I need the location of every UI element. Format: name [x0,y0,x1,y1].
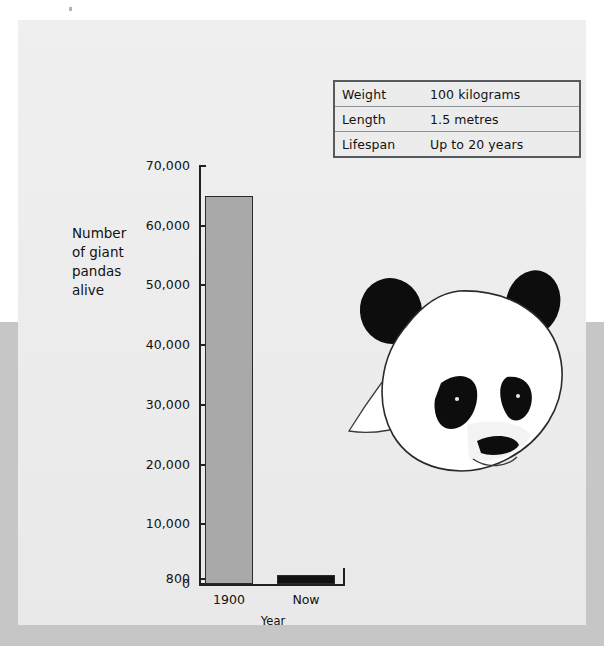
x-tick-label-now: Now [276,592,336,607]
x-axis-title: Year [218,614,328,628]
table-row: Length 1.5 metres [335,107,579,132]
y-axis-title-line: of giant [72,243,172,262]
y-tick-label: 30,000 [70,397,190,412]
fact-label-weight: Weight [342,87,430,102]
x-tick-label-1900: 1900 [194,592,264,607]
y-tick-label: 70,000 [70,158,190,173]
y-tick-label: 60,000 [70,218,190,233]
panda-population-bar-chart: Number of giant pandas alive 080010,0002… [58,140,368,630]
x-axis-line [199,584,345,586]
bar-now [277,575,335,584]
x-axis-end-cap [343,568,345,586]
bar-1900 [205,196,253,584]
y-tick-label: 800 [70,571,190,586]
table-row: Lifespan Up to 20 years [335,132,579,157]
y-tick-label: 10,000 [70,516,190,531]
y-tick-label: 50,000 [70,277,190,292]
scan-artifact-speck [69,7,72,11]
panda-head-illustration [341,263,589,483]
y-axis-tick [199,165,206,167]
y-tick-label: 20,000 [70,457,190,472]
table-row: Weight 100 kilograms [335,82,579,107]
fact-label-length: Length [342,112,430,127]
fact-value-lifespan: Up to 20 years [430,137,523,152]
y-tick-label: 40,000 [70,337,190,352]
fact-value-weight: 100 kilograms [430,87,520,102]
fact-value-length: 1.5 metres [430,112,499,127]
panda-fact-table: Weight 100 kilograms Length 1.5 metres L… [333,80,581,158]
scanned-page-root: Weight 100 kilograms Length 1.5 metres L… [0,0,604,646]
paper-sheet: Weight 100 kilograms Length 1.5 metres L… [18,20,586,625]
